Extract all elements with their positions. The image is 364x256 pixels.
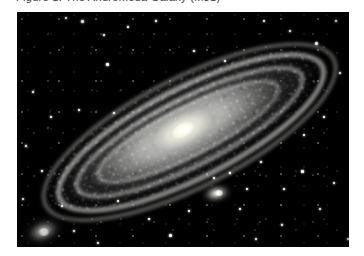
star bbox=[50, 116, 52, 118]
star bbox=[239, 208, 241, 210]
andromeda-galaxy-photo bbox=[17, 12, 349, 247]
star bbox=[81, 20, 84, 23]
page-root: Figure 1. The Andromeda Galaxy (M31) bbox=[0, 0, 364, 256]
star bbox=[65, 17, 67, 19]
star bbox=[188, 210, 190, 212]
photo-frame bbox=[17, 12, 349, 247]
page-title: Figure 1. The Andromeda Galaxy (M31) bbox=[16, 0, 220, 4]
star bbox=[319, 208, 321, 210]
galaxy-m31 bbox=[17, 12, 349, 247]
star bbox=[169, 234, 172, 237]
star bbox=[193, 50, 195, 52]
star bbox=[246, 188, 248, 190]
satellite-galaxy-m32-core bbox=[215, 190, 223, 196]
star bbox=[155, 20, 157, 22]
satellite-galaxy-m110-core bbox=[39, 228, 49, 236]
star bbox=[301, 170, 304, 173]
star bbox=[347, 238, 349, 240]
star bbox=[255, 238, 257, 240]
star bbox=[32, 91, 34, 93]
star bbox=[103, 34, 105, 36]
clipped-header-strip: Figure 1. The Andromeda Galaxy (M31) bbox=[0, 0, 364, 11]
star bbox=[283, 188, 285, 190]
star bbox=[333, 182, 335, 184]
star bbox=[335, 20, 337, 22]
star bbox=[281, 224, 283, 226]
star bbox=[127, 26, 129, 28]
star bbox=[106, 63, 109, 66]
star bbox=[22, 198, 24, 200]
